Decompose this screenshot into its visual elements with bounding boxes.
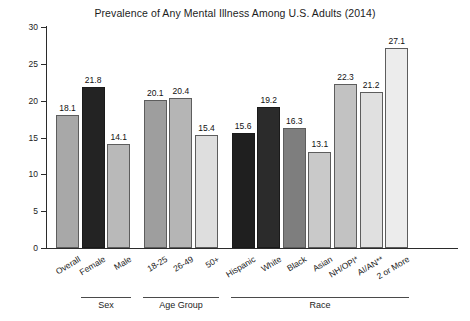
bar-value-label: 27.1: [388, 36, 405, 46]
bar[interactable]: [257, 107, 280, 248]
y-tick: [41, 211, 46, 212]
bar-chart: Prevalence of Any Mental Illness Among U…: [0, 0, 470, 321]
bar[interactable]: [195, 135, 218, 248]
bar-value-label: 20.1: [147, 88, 164, 98]
bar[interactable]: [56, 115, 79, 248]
bar-value-label: 13.1: [312, 139, 329, 149]
group-label: Sex: [98, 300, 114, 310]
bar[interactable]: [385, 48, 408, 248]
group-label: Race: [309, 300, 330, 310]
bar-value-label: 19.2: [260, 95, 277, 105]
bar-value-label: 21.2: [363, 80, 380, 90]
x-axis-label: 18-25: [146, 254, 170, 274]
bar-value-label: 21.8: [85, 75, 102, 85]
bar[interactable]: [144, 100, 167, 248]
y-tick-label: 25: [12, 59, 38, 69]
group-label: Age Group: [159, 300, 203, 310]
y-axis-title: Percent: [0, 102, 1, 131]
bar-value-label: 20.4: [173, 86, 190, 96]
bar[interactable]: [308, 152, 331, 249]
bar-value-label: 14.1: [110, 132, 127, 142]
y-tick-label: 10: [12, 169, 38, 179]
bar-value-label: 18.1: [59, 103, 76, 113]
x-axis-label: Black: [285, 254, 308, 273]
bar[interactable]: [82, 87, 105, 248]
bar[interactable]: [283, 128, 306, 248]
x-axis-line: [46, 248, 458, 249]
y-tick: [41, 27, 46, 28]
y-tick-label: 30: [12, 22, 38, 32]
page-title: Prevalence of Any Mental Illness Among U…: [0, 7, 470, 19]
x-axis-label: 26-49: [171, 254, 195, 274]
y-tick-label: 0: [12, 243, 38, 253]
bar[interactable]: [169, 98, 192, 248]
x-axis-label: Overall: [53, 254, 81, 276]
y-tick: [41, 174, 46, 175]
bar[interactable]: [232, 133, 255, 248]
group-bracket-line: [143, 297, 219, 298]
bar-value-label: 15.6: [235, 121, 252, 131]
bar[interactable]: [334, 84, 357, 248]
bar-value-label: 22.3: [337, 72, 354, 82]
x-axis-label: White: [259, 254, 283, 274]
x-axis-label: Male: [112, 254, 133, 272]
y-tick: [41, 64, 46, 65]
plot-area: 18.121.814.120.120.415.415.619.216.313.1…: [47, 27, 458, 248]
y-tick-label: 15: [12, 133, 38, 143]
x-axis-label: 50+: [203, 254, 221, 270]
y-tick: [41, 138, 46, 139]
x-axis-label: Hispanic: [224, 254, 257, 279]
y-tick-label: 5: [12, 206, 38, 216]
x-axis-label: Female: [78, 254, 107, 277]
bar-value-label: 16.3: [286, 116, 303, 126]
y-tick-label: 20: [12, 96, 38, 106]
group-bracket-line: [81, 297, 132, 298]
y-tick: [41, 101, 46, 102]
bar-value-label: 15.4: [198, 123, 215, 133]
y-tick: [41, 248, 46, 249]
group-bracket-line: [231, 297, 410, 298]
bar[interactable]: [360, 92, 383, 248]
bar[interactable]: [107, 144, 130, 248]
